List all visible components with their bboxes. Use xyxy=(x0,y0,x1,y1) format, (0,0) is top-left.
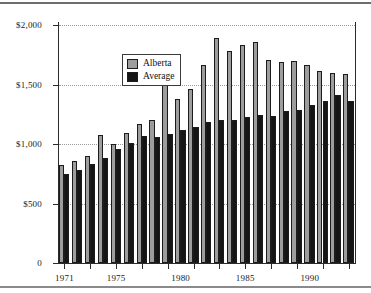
chart-legend: Alberta Average xyxy=(122,54,181,86)
x-tick-label-1990: 1990 xyxy=(300,273,319,283)
bar-average-1988 xyxy=(284,111,289,263)
plot-area: 0$500$1,000$1,500$2,000 1971197519801985… xyxy=(58,25,355,263)
x-tick-mark-1989 xyxy=(297,264,298,269)
bar-average-1989 xyxy=(297,110,302,263)
right-frame-line xyxy=(355,22,356,263)
y-tick-label-1500: $1,500 xyxy=(16,80,42,90)
bar-average-1975 xyxy=(116,149,121,263)
bar-average-1991 xyxy=(323,101,328,263)
x-tick-mark-1981 xyxy=(194,264,195,269)
bar-average-1977 xyxy=(142,136,147,263)
bar-average-1974 xyxy=(103,158,108,263)
bar-average-1981 xyxy=(193,127,198,263)
bar-average-1987 xyxy=(271,116,276,263)
legend-label-average: Average xyxy=(143,71,174,82)
bar-group-1992 xyxy=(329,25,342,263)
bar-average-1973 xyxy=(90,164,95,263)
legend-item-average: Average xyxy=(127,71,174,82)
x-tick-mark-1979 xyxy=(168,264,169,269)
x-tick-label-1971: 1971 xyxy=(55,273,74,283)
bar-group-1982 xyxy=(200,25,213,263)
bar-group-1972 xyxy=(71,25,84,263)
bar-average-1984 xyxy=(232,120,237,263)
bar-average-1979 xyxy=(168,134,173,263)
bar-group-1975 xyxy=(110,25,123,263)
y-tick-mark-0 xyxy=(53,263,58,264)
bar-group-1974 xyxy=(97,25,110,263)
x-tick-mark-1991 xyxy=(323,264,324,269)
bar-average-1976 xyxy=(129,143,134,263)
bar-average-1985 xyxy=(245,117,250,263)
x-tick-mark-1971 xyxy=(64,264,65,269)
x-tick-label-1985: 1985 xyxy=(236,273,255,283)
bar-group-1991 xyxy=(316,25,329,263)
bar-group-1989 xyxy=(290,25,303,263)
bar-group-1986 xyxy=(252,25,265,263)
x-tick-mark-1975 xyxy=(116,264,117,269)
bar-average-1982 xyxy=(206,122,211,263)
x-tick-mark-1977 xyxy=(142,264,143,269)
bar-group-1973 xyxy=(84,25,97,263)
bar-average-1983 xyxy=(219,120,224,263)
legend-swatch-alberta-icon xyxy=(127,59,138,69)
legend-item-alberta: Alberta xyxy=(127,58,174,69)
y-tick-label-500: $500 xyxy=(23,199,42,209)
page-top-rule xyxy=(0,2,371,4)
bar-group-1983 xyxy=(213,25,226,263)
x-tick-label-1980: 1980 xyxy=(171,273,190,283)
x-tick-mark-1985 xyxy=(245,264,246,269)
bar-group-1984 xyxy=(226,25,239,263)
bar-average-1971 xyxy=(64,174,69,263)
bar-group-1988 xyxy=(278,25,291,263)
page-bottom-rule xyxy=(0,286,371,288)
bar-average-1993 xyxy=(348,101,353,263)
y-tick-label-0: 0 xyxy=(37,258,42,268)
figure: 0$500$1,000$1,500$2,000 1971197519801985… xyxy=(0,0,371,293)
bar-average-1980 xyxy=(180,130,185,263)
x-tick-mark-1973 xyxy=(90,264,91,269)
y-tick-label-1000: $1,000 xyxy=(16,139,42,149)
legend-swatch-average-icon xyxy=(127,72,138,82)
bar-group-1987 xyxy=(265,25,278,263)
bar-group-1971 xyxy=(58,25,71,263)
bar-average-1990 xyxy=(310,105,315,263)
bar-group-1993 xyxy=(342,25,355,263)
x-tick-mark-1993 xyxy=(349,264,350,269)
x-tick-mark-1987 xyxy=(271,264,272,269)
bar-group-1990 xyxy=(303,25,316,263)
bar-average-1978 xyxy=(155,137,160,263)
bar-average-1972 xyxy=(77,170,82,263)
bar-group-1985 xyxy=(239,25,252,263)
x-tick-mark-1983 xyxy=(219,264,220,269)
bar-average-1986 xyxy=(258,115,263,263)
y-tick-label-2000: $2,000 xyxy=(16,20,42,30)
bar-group-1981 xyxy=(187,25,200,263)
legend-label-alberta: Alberta xyxy=(143,58,172,69)
bar-average-1992 xyxy=(335,95,340,263)
x-tick-label-1975: 1975 xyxy=(107,273,126,283)
x-axis-line xyxy=(58,263,356,264)
